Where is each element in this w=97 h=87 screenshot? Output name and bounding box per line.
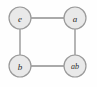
node-label-ab: ab	[71, 62, 79, 71]
graph-node-a[interactable]: a	[64, 7, 86, 29]
graph-diagram: e a b ab	[0, 0, 97, 87]
node-label-a: a	[73, 14, 78, 24]
graph-node-e[interactable]: e	[9, 7, 31, 29]
graph-node-b[interactable]: b	[9, 55, 31, 77]
graph-canvas: e a b ab	[0, 0, 97, 87]
graph-node-ab[interactable]: ab	[64, 55, 86, 77]
node-label-e: e	[18, 14, 22, 24]
node-label-b: b	[18, 62, 23, 72]
